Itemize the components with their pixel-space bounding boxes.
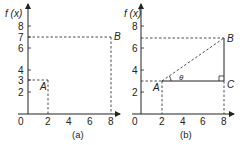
origin-label: 0: [132, 116, 138, 127]
panel-caption: (a): [72, 129, 84, 140]
x-tick-label: 2: [159, 116, 165, 127]
x-tick-label: 8: [108, 116, 114, 127]
y-tick-label: 6: [132, 43, 138, 54]
point-b-label: B: [114, 31, 121, 42]
point-a-label: A: [152, 82, 160, 93]
angle-theta-label: θ: [179, 73, 184, 82]
panel-b: f (x) 8 6 4 2 0 2 4 6 8 A B C θ (b): [124, 4, 235, 140]
point-b-label: B: [227, 33, 234, 44]
angle-arc: [169, 76, 171, 81]
y-tick-label: 3: [18, 75, 24, 86]
x-tick-label: 6: [87, 116, 93, 127]
gradient-diagram: f (x) 8 7 6 4 3 2 0 2 4 6 8 A B (a): [0, 0, 249, 145]
y-axis-label: f (x): [124, 8, 141, 19]
y-tick-label: 8: [18, 21, 24, 32]
point-c-label: C: [227, 79, 235, 90]
y-tick-label: 8: [132, 21, 138, 32]
point-a-label: A: [39, 81, 47, 92]
y-tick-label: 2: [18, 87, 24, 98]
y-tick-label: 7: [18, 32, 24, 43]
panel-caption: (b): [180, 129, 192, 140]
y-tick-label: 6: [18, 43, 24, 54]
x-tick-label: 4: [66, 116, 72, 127]
y-tick-label: 2: [132, 87, 138, 98]
x-tick-label: 6: [200, 116, 206, 127]
x-tick-label: 8: [221, 116, 227, 127]
y-tick-label: 4: [132, 65, 138, 76]
panel-a: f (x) 8 7 6 4 3 2 0 2 4 6 8 A B (a): [5, 4, 121, 140]
x-tick-label: 4: [180, 116, 186, 127]
x-tick-label: 2: [45, 116, 51, 127]
right-angle-marker: [219, 76, 224, 81]
hypotenuse-ab: [162, 38, 224, 81]
origin-label: 0: [18, 116, 24, 127]
y-axis-label: f (x): [5, 8, 22, 19]
